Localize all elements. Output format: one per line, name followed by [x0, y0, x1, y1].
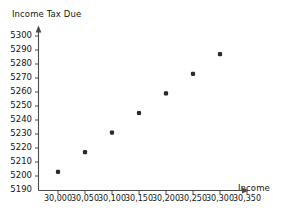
x-axis-tick-label: 30,200 [152, 194, 180, 203]
x-axis-tick-label: 30,300 [206, 194, 234, 203]
y-axis-tick-label: 5260 [2, 86, 32, 96]
data-point [218, 52, 222, 56]
data-point [56, 170, 60, 174]
plot-area [0, 0, 283, 214]
x-axis-tick-label: 30,050 [71, 194, 99, 203]
y-axis-tick-label: 5290 [2, 44, 32, 54]
data-point [110, 131, 114, 135]
x-axis-tick-label: 30,250 [179, 194, 207, 203]
scatter-chart: Income Tax Due Income 530052905280527052… [0, 0, 283, 214]
data-point [164, 91, 168, 95]
y-axis-tick-label: 5270 [2, 72, 32, 82]
x-axis-tick-label: 30,000 [44, 194, 72, 203]
x-axis-tick-label: 30,350 [233, 194, 261, 203]
y-axis-tick-label: 5250 [2, 100, 32, 110]
data-point [191, 72, 195, 76]
data-point [83, 150, 87, 154]
y-axis-tick-label: 5220 [2, 142, 32, 152]
data-point [137, 111, 141, 115]
y-axis-tick-label: 5210 [2, 156, 32, 166]
y-axis-tick-label: 5300 [2, 30, 32, 40]
y-axis-tick-label: 5240 [2, 114, 32, 124]
x-axis-tick-label: 30,100 [98, 194, 126, 203]
y-axis-tick-label: 5190 [2, 184, 32, 194]
y-axis-tick-label: 5230 [2, 128, 32, 138]
y-axis-tick-label: 5280 [2, 58, 32, 68]
x-axis-tick-label: 30,150 [125, 194, 153, 203]
y-axis-tick-label: 5200 [2, 170, 32, 180]
